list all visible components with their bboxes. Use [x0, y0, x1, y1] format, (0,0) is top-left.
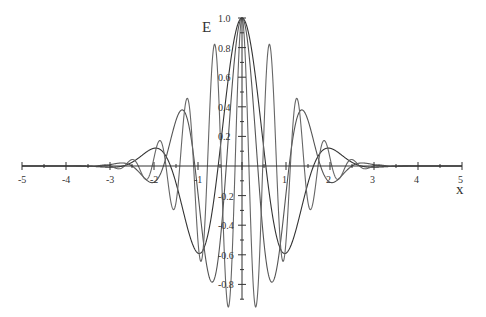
y-tick-label: 0.8 [218, 43, 231, 54]
x-axis-title: x [456, 181, 464, 197]
x-tick-label: -4 [62, 174, 70, 185]
x-tick-label: 2 [326, 174, 331, 185]
y-tick-label: 0.4 [218, 102, 231, 113]
y-tick-label: -0.2 [218, 191, 234, 202]
x-tick-label: 1 [282, 174, 287, 185]
y-tick-label: -0.4 [218, 220, 234, 231]
x-tick-label: 3 [370, 174, 375, 185]
x-tick-label: -1 [194, 174, 202, 185]
y-tick-label: -0.8 [218, 279, 234, 290]
y-axis-title: E [202, 19, 211, 35]
axes [22, 18, 462, 299]
chart-plot: -5-4-3-2-1123451.00.80.60.40.2-0.2-0.4-0… [0, 0, 486, 317]
x-tick-label: 4 [414, 174, 419, 185]
y-tick-label: -0.6 [218, 250, 234, 261]
x-tick-label: -2 [150, 174, 158, 185]
x-tick-label: -5 [18, 174, 26, 185]
y-tick-label: 1.0 [218, 13, 231, 24]
y-tick-label: 0.6 [218, 72, 231, 83]
y-tick-label: 0.2 [218, 131, 231, 142]
x-tick-label: -3 [106, 174, 114, 185]
